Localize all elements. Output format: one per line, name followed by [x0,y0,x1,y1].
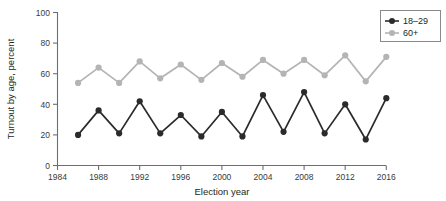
data-point: 60+ 2004: 69% [260,57,266,63]
data-point: 60+ 1990: 54% [116,80,122,86]
data-point: 60+ 2006: 60% [280,71,286,77]
data-series-layer: 18–29 1986: 20%18–29 1988: 36%18–29 1990… [75,52,389,142]
data-point: 60+ 1988: 64% [96,64,102,70]
y-tick-label: 100 [36,8,50,18]
data-point: 60+ 2010: 59% [322,72,328,78]
x-tick-label: 1984 [48,172,67,182]
legend-marker-old [389,30,395,36]
x-tick-label: 2016 [377,172,396,182]
y-tick-label: 80 [41,38,51,48]
y-tick-label: 60 [41,69,51,79]
x-axis-title: Election year [195,186,250,197]
data-point: 60+ 2000: 67% [219,60,225,66]
series-old: 60+ 1986: 54%60+ 1988: 64%60+ 1990: 54%6… [75,52,389,86]
data-point: 18–29 2008: 48% [301,89,307,95]
series-line [78,55,386,83]
y-tick-label: 20 [41,130,51,140]
x-tick-label: 1988 [89,172,108,182]
y-tick-label: 40 [41,100,51,110]
data-point: 60+ 1994: 57% [157,75,163,81]
data-point: 60+ 2016: 71% [383,54,389,60]
series-young: 18–29 1986: 20%18–29 1988: 36%18–29 1990… [75,89,389,143]
data-point: 60+ 1992: 68% [137,58,143,64]
legend: 18–29 60+ [381,11,441,42]
y-tick-label: 0 [45,161,50,171]
y-axis-ticks [53,13,58,166]
x-tick-label: 1992 [130,172,149,182]
data-point: 18–29 2004: 46% [260,92,266,98]
x-tick-label: 2004 [254,172,273,182]
line-chart: 100 80 60 40 20 0 1984 1988 1992 1996 20… [0,0,446,201]
y-axis-tick-labels: 100 80 60 40 20 0 [36,8,50,171]
data-point: 18–29 2016: 44% [383,95,389,101]
x-axis-tick-labels: 1984 1988 1992 1996 2000 2004 2008 2012 … [48,172,396,182]
data-point: 18–29 2012: 40% [342,101,348,107]
data-point: 18–29 2014: 17% [363,136,369,142]
legend-label-old: 60+ [403,28,418,38]
legend-marker-young [389,18,395,24]
data-point: 60+ 2008: 69% [301,57,307,63]
data-point: 60+ 1996: 66% [178,61,184,67]
data-point: 18–29 2006: 22% [280,129,286,135]
data-point: 18–29 1992: 42% [137,98,143,104]
data-point: 60+ 2002: 58% [239,74,245,80]
x-tick-label: 2000 [212,172,231,182]
data-point: 60+ 1986: 54% [75,80,81,86]
data-point: 18–29 2002: 19% [239,133,245,139]
data-point: 18–29 1988: 36% [96,107,102,113]
x-tick-label: 2012 [336,172,355,182]
data-point: 60+ 2012: 72% [342,52,348,58]
data-point: 60+ 1998: 56% [198,77,204,83]
x-tick-label: 1996 [171,172,190,182]
data-point: 18–29 2000: 35% [219,109,225,115]
y-axis-title: Turnout by age, percent [5,38,16,139]
x-axis-ticks [58,166,387,171]
data-point: 18–29 2010: 21% [322,130,328,136]
chart-figure: 100 80 60 40 20 0 1984 1988 1992 1996 20… [0,0,446,201]
data-point: 60+ 2014: 55% [363,78,369,84]
legend-label-young: 18–29 [403,16,428,26]
data-point: 18–29 1990: 21% [116,130,122,136]
data-point: 18–29 1998: 19% [198,133,204,139]
data-point: 18–29 1994: 21% [157,130,163,136]
x-tick-label: 2008 [295,172,314,182]
data-point: 18–29 1986: 20% [75,132,81,138]
series-line [78,92,386,139]
data-point: 18–29 1996: 33% [178,112,184,118]
